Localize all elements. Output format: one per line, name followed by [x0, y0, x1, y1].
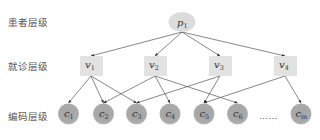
code-node-c4: c4 [160, 104, 181, 125]
ellipsis: …… [259, 111, 278, 121]
code-node-c2: c2 [93, 104, 114, 125]
level-label-visit: 就诊层级 [8, 61, 48, 72]
code-node-c3: c3 [126, 104, 147, 125]
visit-node-v4: v4 [274, 56, 297, 76]
visit-node-v1: v1 [80, 56, 103, 76]
edge-p1-v3 [182, 32, 220, 56]
edges [69, 32, 302, 103]
code-node-c6: c6 [227, 104, 248, 125]
edge-p1-v4 [182, 32, 285, 56]
edge-v4-c5 [204, 76, 285, 103]
level-label-patient: 患者层级 [8, 17, 48, 28]
edge-v1-c1 [69, 76, 92, 103]
code-node-c5: c5 [194, 104, 215, 125]
visit-node-v3: v3 [209, 56, 232, 76]
visit-node-v2: v2 [144, 56, 167, 76]
hierarchy-diagram: 患者层级 就诊层级 编码层级 p1 v1 v2 v3 v4 c1 c2 c3 c… [0, 0, 320, 140]
edge-v3-c3 [137, 76, 221, 103]
code-node-c1: c1 [58, 104, 79, 125]
edge-v4-cm [285, 76, 301, 103]
level-label-code: 编码层级 [8, 111, 48, 122]
patient-node-p1: p1 [169, 12, 196, 32]
code-node-cm: cm [291, 104, 312, 125]
